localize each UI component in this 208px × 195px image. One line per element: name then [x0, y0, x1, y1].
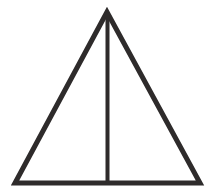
triangle-diagram [0, 0, 208, 195]
